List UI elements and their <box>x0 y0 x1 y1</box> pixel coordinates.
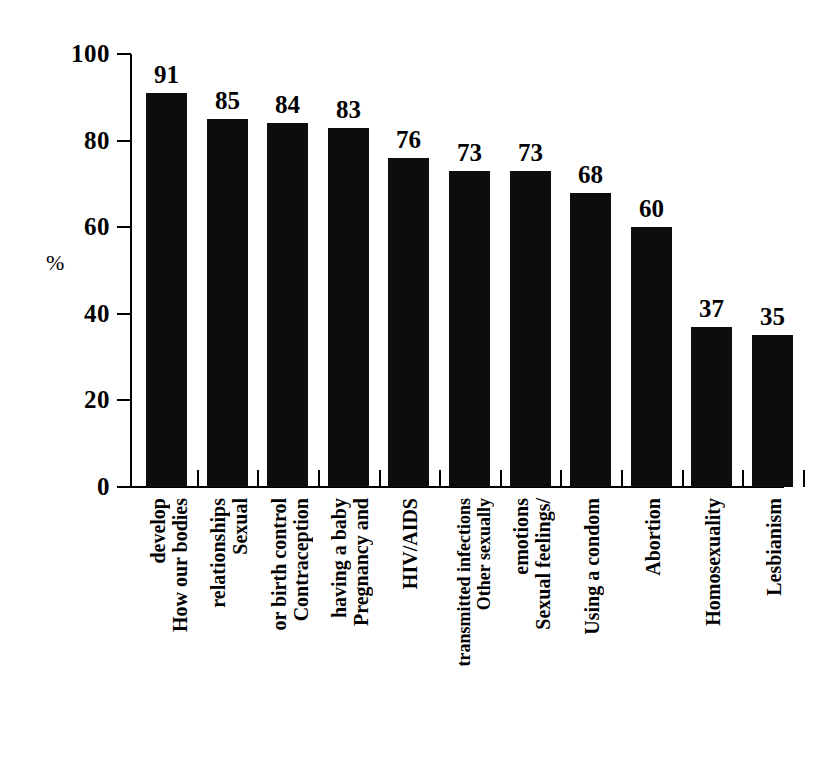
x-axis-tick <box>560 470 562 487</box>
bar-value-label: 73 <box>500 140 561 165</box>
category-label-line: Other sexually <box>474 498 494 610</box>
bar <box>267 123 308 487</box>
category-label: Homosexuality <box>701 498 724 748</box>
y-axis-tick-label: 80 <box>45 128 110 153</box>
bar <box>449 171 490 487</box>
x-axis-tick <box>257 470 259 487</box>
bar-value-label: 76 <box>378 127 439 152</box>
x-axis-tick <box>621 470 623 487</box>
y-axis-tick <box>117 226 131 228</box>
y-axis-tick-label: 0 <box>45 474 110 499</box>
category-label: Lesbianism <box>762 498 785 748</box>
bar <box>570 193 611 487</box>
category-label: HIV/AIDS <box>398 498 421 748</box>
y-axis-unit-label: % <box>46 252 64 274</box>
bar <box>328 128 369 487</box>
bar-value-label: 85 <box>197 88 258 113</box>
category-label-line: or birth control <box>268 498 290 631</box>
category-label-line: Homosexuality <box>702 498 724 626</box>
category-label: Sexualrelationships <box>205 498 251 748</box>
category-label-line: Lesbianism <box>763 498 785 596</box>
category-label-line: transmitted infections <box>454 498 474 666</box>
y-axis-line <box>130 54 132 488</box>
category-label-line: relationships <box>207 498 229 608</box>
category-label-line: Abortion <box>642 498 664 576</box>
category-label-line: emotions <box>510 498 532 575</box>
category-label-line: having a baby <box>328 498 350 618</box>
plot-area: % 100806040200 9185848376737368603735 Ho… <box>0 0 818 763</box>
x-axis-tick <box>379 470 381 487</box>
bar-chart: % 100806040200 9185848376737368603735 Ho… <box>0 0 818 763</box>
y-axis-tick-label: 100 <box>45 41 110 66</box>
y-axis-tick <box>117 399 131 401</box>
category-label-line: Contraception <box>290 498 312 621</box>
bar-value-label: 91 <box>136 62 197 87</box>
x-axis-tick <box>682 470 684 487</box>
y-axis-tick <box>117 486 131 488</box>
x-axis-tick <box>439 470 441 487</box>
x-axis-tick <box>197 470 199 487</box>
category-label: Sexual feelings/emotions <box>508 498 554 748</box>
bar-value-label: 60 <box>621 196 682 221</box>
bar <box>146 93 187 487</box>
bar-value-label: 73 <box>439 140 500 165</box>
bar <box>631 227 672 487</box>
bar-value-label: 83 <box>318 97 379 122</box>
bar <box>207 119 248 487</box>
y-axis-tick-label: 40 <box>45 301 110 326</box>
y-axis-tick-label: 20 <box>45 387 110 412</box>
y-axis-tick <box>117 313 131 315</box>
bar <box>388 158 429 487</box>
category-label-line: How our bodies <box>169 498 191 632</box>
x-axis-tick <box>318 470 320 487</box>
category-label: Pregnancy andhaving a baby <box>326 498 372 748</box>
category-label-line: Using a condom <box>581 498 603 635</box>
category-label: Contraceptionor birth control <box>266 498 312 748</box>
y-axis-tick <box>117 53 131 55</box>
bar-value-label: 84 <box>257 92 318 117</box>
category-label-line: Pregnancy and <box>350 498 372 626</box>
category-label-line: Sexual feelings/ <box>532 498 554 630</box>
category-label: Other sexuallytransmitted infections <box>448 498 494 748</box>
y-axis-tick <box>117 140 131 142</box>
x-axis-tick <box>742 470 744 487</box>
y-axis-tick-label: 60 <box>45 214 110 239</box>
bar-value-label: 35 <box>742 304 803 329</box>
category-label: How our bodiesdevelop <box>145 498 191 748</box>
bar <box>752 335 793 487</box>
bar-value-label: 68 <box>560 162 621 187</box>
category-label: Using a condom <box>580 498 603 748</box>
category-label: Abortion <box>641 498 664 748</box>
bar-value-label: 37 <box>681 296 742 321</box>
category-label-line: Sexual <box>229 498 251 555</box>
bar <box>510 171 551 487</box>
x-axis-tick <box>803 470 805 487</box>
category-label-line: develop <box>147 498 169 564</box>
x-axis-tick <box>500 470 502 487</box>
bar <box>691 327 732 487</box>
category-label-line: HIV/AIDS <box>399 498 421 589</box>
